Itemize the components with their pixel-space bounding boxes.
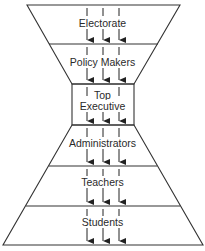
layer-top-executive-line2: Executive xyxy=(0,100,205,112)
layer-administrators: Administrators xyxy=(0,137,205,149)
layer-electorate: Electorate xyxy=(0,17,205,29)
layer-policy-makers: Policy Makers xyxy=(0,56,205,68)
layer-students: Students xyxy=(0,216,205,228)
layer-teachers: Teachers xyxy=(0,176,205,188)
hourglass-diagram xyxy=(0,0,205,251)
